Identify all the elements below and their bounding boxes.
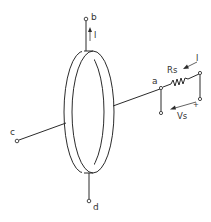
terminal-d-node: [87, 199, 91, 203]
voltage-source-label: Vs: [177, 111, 188, 121]
source-node-left-bottom: [159, 111, 162, 114]
hall-disk-diagram: b I c d a Rs: [0, 0, 211, 222]
current-label-right: I: [196, 54, 198, 63]
terminal-b-node: [84, 17, 88, 21]
arrow-head-icon: [88, 27, 92, 32]
source-node-right-bottom: [198, 97, 201, 100]
resistor-zigzag-icon: [163, 74, 199, 87]
wire-a: [113, 89, 160, 106]
terminal-d-label: d: [93, 202, 99, 212]
source-node-right-top: [198, 71, 201, 74]
voltage-source-indicator: + Vs: [170, 101, 199, 121]
series-resistor: Rs: [163, 65, 202, 101]
wire-c: [19, 123, 66, 140]
terminal-b: b I: [84, 12, 97, 51]
arrow-head-icon: [183, 65, 189, 70]
terminal-c: c: [10, 123, 66, 143]
terminal-c-node: [15, 139, 19, 143]
source-current-indicator: I: [183, 54, 198, 69]
voltage-polarity-label: +: [193, 101, 199, 109]
arrow-head-icon: [170, 106, 176, 110]
terminal-d: d: [87, 173, 99, 212]
resistor-label: Rs: [167, 65, 178, 75]
terminal-b-label: b: [91, 12, 97, 22]
terminal-c-label: c: [10, 127, 15, 137]
current-label-top: I: [94, 31, 96, 40]
disk-sample: [64, 48, 114, 178]
terminal-a: a: [113, 76, 163, 115]
terminal-a-label: a: [152, 76, 158, 86]
terminal-a-node: [159, 86, 162, 89]
